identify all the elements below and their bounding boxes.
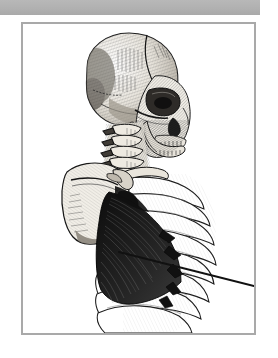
illustration-canvas — [23, 24, 254, 333]
top-gray-band — [0, 0, 260, 15]
top-gray-band-fill — [0, 0, 260, 15]
illustration-frame — [21, 22, 256, 335]
page-root: Anatomical Plate — Skull, Cervical Spine… — [0, 0, 278, 358]
anatomical-illustration — [23, 24, 254, 333]
orbit — [146, 88, 180, 116]
